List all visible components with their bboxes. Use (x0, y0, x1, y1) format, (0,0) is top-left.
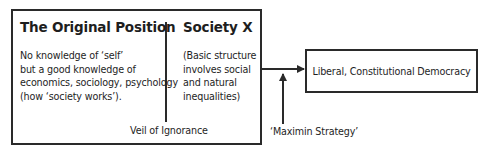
outcome-box: Liberal, Constitutional Democracy (305, 49, 478, 93)
maximin-strategy-label: ‘Maximin Strategy’ (270, 126, 358, 137)
outcome-label: Liberal, Constitutional Democracy (312, 66, 470, 77)
